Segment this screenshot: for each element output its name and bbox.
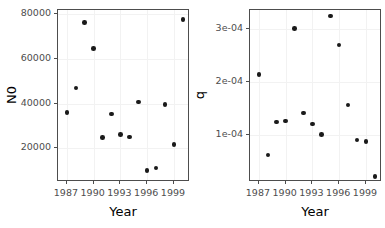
y-axis-tick-label: 40000 [0, 98, 51, 108]
plot-area-q [249, 9, 381, 181]
y-axis-tick [246, 134, 249, 135]
y-axis-tick [54, 13, 57, 14]
x-axis-tick [119, 181, 120, 184]
data-point [109, 112, 114, 117]
x-axis-tick [258, 181, 259, 184]
data-point [283, 119, 288, 124]
data-point [337, 43, 342, 48]
x-axis-tick [285, 181, 286, 184]
y-axis-title-q: q [193, 91, 206, 99]
y-axis-tick-label: 80000 [0, 9, 51, 19]
x-axis-tick [338, 181, 339, 184]
x-axis-tick-label: 1990 [81, 188, 105, 198]
x-axis-tick-label: 1993 [107, 188, 131, 198]
grid-line-vertical [286, 10, 287, 180]
data-point [145, 168, 150, 173]
y-axis-tick [54, 58, 57, 59]
data-point [91, 46, 96, 51]
grid-line-vertical [259, 10, 260, 180]
y-axis-tick [54, 103, 57, 104]
x-axis-tick-label: 1999 [161, 188, 185, 198]
x-axis-tick-label: 1987 [54, 188, 78, 198]
grid-line-vertical [174, 10, 175, 180]
grid-line-vertical [312, 10, 313, 180]
data-point [65, 110, 70, 115]
data-point [292, 26, 297, 31]
x-axis-tick-label: 1990 [273, 188, 297, 198]
data-point [257, 72, 262, 77]
data-point [74, 86, 79, 91]
grid-line-horizontal [58, 59, 188, 60]
grid-line-vertical [94, 10, 95, 180]
data-point [266, 153, 271, 158]
y-axis-tick-label: 3e-04 [193, 23, 243, 33]
x-axis-tick [173, 181, 174, 184]
x-axis-tick [311, 181, 312, 184]
x-axis-tick [93, 181, 94, 184]
data-point [82, 20, 87, 25]
data-point [274, 120, 279, 125]
grid-line-horizontal [250, 135, 380, 136]
x-axis-tick-label: 1993 [299, 188, 323, 198]
x-axis-title-year-right: Year [301, 205, 329, 218]
grid-line-horizontal [58, 148, 188, 149]
y-axis-tick [246, 28, 249, 29]
panel-q: q Year 1e-042e-043e-04198719901993199619… [193, 0, 385, 228]
data-point [355, 138, 360, 143]
panel-n0: N0 Year 20000400006000080000198719901993… [0, 0, 193, 228]
data-point [100, 135, 105, 140]
x-axis-tick-label: 1999 [353, 188, 377, 198]
y-axis-tick-label: 1e-04 [193, 130, 243, 140]
grid-line-vertical [147, 10, 148, 180]
data-point [301, 111, 306, 116]
data-point [118, 132, 123, 137]
data-point [127, 135, 132, 140]
grid-line-horizontal [250, 29, 380, 30]
grid-line-horizontal [58, 14, 188, 15]
y-axis-tick-label: 20000 [0, 143, 51, 153]
x-axis-tick-label: 1996 [134, 188, 158, 198]
data-point [364, 139, 369, 144]
grid-line-horizontal [250, 82, 380, 83]
data-point [310, 122, 315, 127]
grid-line-vertical [67, 10, 68, 180]
data-point [319, 132, 324, 137]
grid-line-vertical [120, 10, 121, 180]
grid-line-vertical [366, 10, 367, 180]
grid-line-horizontal [58, 104, 188, 105]
y-axis-tick [246, 81, 249, 82]
grid-line-vertical [339, 10, 340, 180]
y-axis-tick-label: 60000 [0, 53, 51, 63]
data-point [328, 14, 333, 19]
x-axis-title-year-left: Year [109, 205, 137, 218]
y-axis-tick [54, 147, 57, 148]
x-axis-tick [365, 181, 366, 184]
x-axis-tick-label: 1996 [326, 188, 350, 198]
scatter-plot-figure: N0 Year 20000400006000080000198719901993… [0, 0, 385, 228]
data-point [154, 166, 159, 171]
data-point [172, 142, 177, 147]
data-point [181, 17, 186, 22]
y-axis-tick-label: 2e-04 [193, 76, 243, 86]
x-axis-tick-label: 1987 [246, 188, 270, 198]
data-point [373, 174, 378, 179]
data-point [163, 102, 168, 107]
data-point [136, 100, 141, 105]
x-axis-tick [66, 181, 67, 184]
x-axis-tick [146, 181, 147, 184]
plot-area-n0 [57, 9, 189, 181]
data-point [346, 103, 351, 108]
